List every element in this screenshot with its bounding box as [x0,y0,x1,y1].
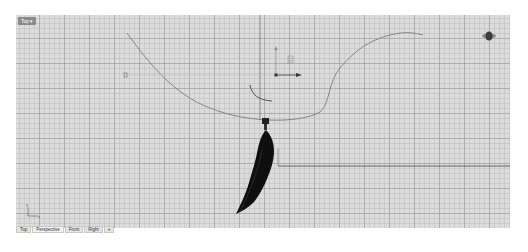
feather-object[interactable] [236,118,274,214]
nav-sphere-icon [486,32,493,41]
viewport-tabs: Top Perspective Front Right + [16,226,114,233]
tab-top[interactable]: Top [16,226,31,233]
gumball-scale-icon[interactable] [288,56,293,63]
gumball-origin[interactable] [275,74,278,77]
curve-right [268,33,423,120]
curve-small [250,85,272,101]
tab-perspective[interactable]: Perspective [32,226,64,233]
navigation-widget[interactable] [478,28,500,40]
axis-label-x: x [38,214,40,219]
tab-front[interactable]: Front [65,226,84,233]
scene-geometry: y x [0,0,528,252]
tab-right[interactable]: Right [84,226,103,233]
gumball-y-tip[interactable] [275,46,278,50]
axis-indicator-icon [28,207,38,216]
axis-label-y: y [26,202,28,207]
gumball-x-tip[interactable] [296,73,302,77]
add-viewport-tab-button[interactable]: + [104,226,115,233]
curve-left [127,33,268,120]
